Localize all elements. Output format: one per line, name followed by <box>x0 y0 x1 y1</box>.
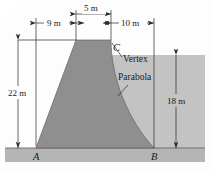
dimension-label-18m: 18 m <box>167 96 185 106</box>
annotation-parabola: Parabola <box>118 72 152 82</box>
point-label-C: C <box>113 42 121 53</box>
dimension-label-5m: 5 m <box>84 3 98 13</box>
dam-figure: 9 m 5 m 10 m 22 m 18 m C Vertex Parabola… <box>0 0 213 172</box>
point-label-A: A <box>32 151 40 162</box>
dimension-label-9m: 9 m <box>47 18 61 28</box>
dimension-label-10m: 10 m <box>121 18 139 28</box>
point-label-B: B <box>151 151 158 162</box>
annotation-vertex: Vertex <box>123 54 148 64</box>
dimension-label-22m: 22 m <box>8 88 26 98</box>
